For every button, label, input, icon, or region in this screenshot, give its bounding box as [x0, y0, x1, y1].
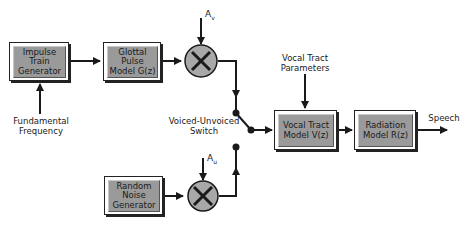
- multiplier-unvoiced: [188, 181, 218, 211]
- vocal-tract-model-label: Vocal Tract Model V(z): [278, 114, 334, 147]
- radiation-model-label: Radiation Model R(z): [358, 114, 413, 147]
- impulse-train-generator-block: Impulse Train Generator: [9, 42, 69, 81]
- vocal-tract-model-block: Vocal Tract Model V(z): [274, 110, 337, 150]
- speech-production-diagram: Impulse Train Generator Glottal Pulse Mo…: [0, 0, 465, 225]
- glottal-pulse-model-block: Glottal Pulse Model G(z): [103, 42, 161, 81]
- multiplier-voiced: [185, 45, 217, 77]
- switch-contact-unvoiced: [233, 144, 240, 151]
- arrow-voiced-path: [218, 61, 236, 97]
- speech-output-label: Speech: [424, 114, 464, 124]
- switch-pivot: [248, 127, 255, 134]
- glottal-pulse-model-label: Glottal Pulse Model G(z): [107, 46, 158, 78]
- fundamental-frequency-label: Fundamental Frequency: [5, 117, 77, 136]
- random-noise-generator-block: Random Noise Generator: [104, 176, 163, 215]
- voiced-unvoiced-switch-label: Voiced-Unvoiced Switch: [168, 117, 240, 136]
- av-gain-label: Av: [205, 10, 215, 22]
- arrow-unvoiced-path: [219, 168, 236, 196]
- random-noise-generator-label: Random Noise Generator: [108, 180, 160, 212]
- impulse-train-generator-label: Impulse Train Generator: [13, 46, 66, 78]
- au-gain-label: Au: [207, 154, 217, 166]
- radiation-model-block: Radiation Model R(z): [354, 110, 416, 150]
- vocal-tract-parameters-label: Vocal Tract Parameters: [268, 54, 342, 73]
